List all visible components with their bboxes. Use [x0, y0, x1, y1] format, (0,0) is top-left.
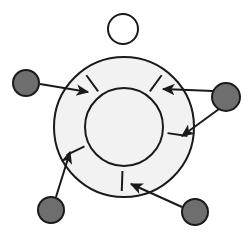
- key-circle-group: [108, 14, 138, 44]
- tick-bottom: [122, 171, 123, 191]
- diagram-canvas: [0, 0, 249, 239]
- annulus-group: [54, 57, 194, 197]
- key-circle: [108, 14, 138, 44]
- annulus-schematic-diagram: [0, 0, 249, 239]
- marker-bottom-right: [182, 199, 208, 225]
- annulus-inner-circle: [85, 88, 163, 166]
- marker-right: [212, 83, 240, 111]
- marker-bottom-left: [38, 197, 64, 223]
- marker-left: [13, 70, 39, 96]
